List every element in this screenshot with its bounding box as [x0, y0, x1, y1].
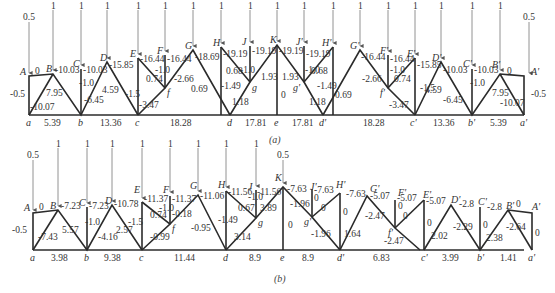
svg-text:-0.95: -0.95 [191, 223, 211, 233]
svg-text:f: f [167, 87, 171, 98]
svg-text:-0.18: -0.18 [172, 209, 192, 219]
caption-b: (b) [274, 273, 286, 285]
svg-text:1: 1 [275, 1, 280, 11]
svg-text:1.93: 1.93 [261, 72, 278, 82]
svg-text:-5.07: -5.07 [426, 196, 446, 206]
svg-text:-10.03: -10.03 [474, 65, 499, 75]
svg-text:G': G' [350, 40, 360, 51]
svg-text:K: K [269, 34, 278, 45]
svg-text:0.68: 0.68 [311, 66, 328, 76]
svg-text:0: 0 [343, 207, 348, 217]
svg-text:1: 1 [136, 1, 141, 11]
svg-text:-15.85: -15.85 [109, 60, 134, 70]
svg-text:-10.07: -10.07 [500, 98, 525, 108]
svg-text:-0.5: -0.5 [531, 89, 546, 99]
svg-text:1: 1 [219, 1, 224, 11]
svg-text:-10.07: -10.07 [30, 102, 55, 112]
svg-text:H: H [217, 179, 226, 190]
svg-text:0: 0 [427, 218, 432, 228]
svg-text:-2.8: -2.8 [487, 202, 502, 212]
svg-text:1: 1 [51, 1, 56, 11]
svg-text:K: K [274, 172, 283, 183]
svg-text:0.68: 0.68 [226, 66, 243, 76]
svg-text:1.41: 1.41 [500, 253, 517, 263]
svg-text:1: 1 [163, 1, 168, 11]
svg-text:g: g [252, 82, 257, 93]
svg-text:2.57: 2.57 [116, 225, 133, 235]
svg-text:-7.43: -7.43 [38, 232, 58, 242]
svg-text:3.99: 3.99 [442, 253, 459, 263]
svg-text:-7.23: -7.23 [89, 201, 109, 211]
svg-text:g': g' [293, 82, 301, 93]
svg-text:0.5: 0.5 [277, 150, 289, 160]
svg-text:0.5: 0.5 [23, 12, 35, 22]
svg-text:b: b [84, 252, 89, 263]
svg-text:A': A' [530, 66, 540, 77]
svg-text:-15.85: -15.85 [417, 60, 442, 70]
svg-text:5.39: 5.39 [490, 118, 507, 128]
svg-text:-1.49: -1.49 [218, 215, 238, 225]
svg-text:0.69: 0.69 [191, 84, 208, 94]
svg-text:0.5: 0.5 [523, 12, 535, 22]
svg-text:d: d [223, 252, 229, 263]
svg-text:-7.23: -7.23 [61, 201, 81, 211]
svg-text:a: a [30, 252, 35, 263]
svg-text:8.9: 8.9 [249, 253, 261, 263]
svg-text:-1.0: -1.0 [85, 217, 100, 227]
svg-text:a: a [26, 117, 31, 128]
svg-text:-1.0: -1.0 [79, 78, 94, 88]
svg-text:1: 1 [498, 1, 503, 11]
svg-text:0.69: 0.69 [335, 90, 352, 100]
svg-text:D: D [99, 52, 108, 63]
svg-text:B: B [46, 63, 52, 74]
load-arrows-a [29, 10, 529, 73]
svg-text:-10.03: -10.03 [55, 65, 80, 75]
svg-text:-1.0: -1.0 [248, 192, 263, 202]
svg-text:H': H' [321, 37, 332, 48]
svg-text:-6.45: -6.45 [84, 95, 104, 105]
svg-text:d': d' [319, 117, 327, 128]
svg-text:1: 1 [140, 139, 145, 149]
svg-text:b': b' [468, 117, 476, 128]
svg-text:1: 1 [85, 139, 90, 149]
svg-text:13.36: 13.36 [433, 118, 455, 128]
svg-text:7.95: 7.95 [492, 88, 509, 98]
svg-text:-2.47: -2.47 [365, 211, 385, 221]
svg-text:18.28: 18.28 [170, 118, 192, 128]
svg-text:d': d' [337, 252, 345, 263]
svg-text:-0.5: -0.5 [12, 225, 27, 235]
svg-text:0: 0 [281, 90, 286, 100]
svg-text:c': c' [410, 117, 417, 128]
svg-text:B: B [50, 200, 56, 211]
svg-text:-5.07: -5.07 [370, 191, 390, 201]
svg-text:11.44: 11.44 [174, 253, 195, 263]
svg-text:1: 1 [110, 139, 115, 149]
svg-text:-1.5: -1.5 [125, 89, 140, 99]
svg-text:1: 1 [105, 1, 110, 11]
svg-text:e: e [274, 117, 279, 128]
svg-text:-16.44: -16.44 [361, 52, 386, 62]
svg-text:-3.47: -3.47 [389, 100, 409, 110]
svg-text:-11.06: -11.06 [200, 191, 224, 201]
svg-text:3.98: 3.98 [51, 253, 68, 263]
svg-text:A: A [19, 66, 27, 77]
svg-text:1.18: 1.18 [309, 97, 326, 107]
svg-text:-19.19: -19.19 [223, 49, 248, 59]
svg-text:3.14: 3.14 [234, 232, 251, 242]
svg-text:-10.03: -10.03 [83, 65, 108, 75]
svg-text:1: 1 [413, 1, 418, 11]
svg-text:1: 1 [302, 1, 307, 11]
svg-text:-2.64: -2.64 [506, 222, 526, 232]
svg-text:b: b [78, 117, 83, 128]
svg-text:13.36: 13.36 [100, 118, 122, 128]
svg-text:g': g' [304, 216, 312, 227]
svg-text:18.28: 18.28 [363, 118, 385, 128]
svg-text:-10.78: -10.78 [114, 199, 139, 209]
svg-text:E: E [129, 48, 136, 59]
svg-text:0: 0 [321, 203, 326, 213]
svg-text:17.81: 17.81 [245, 118, 267, 128]
svg-text:a': a' [520, 117, 528, 128]
svg-text:2.02: 2.02 [431, 231, 448, 241]
svg-text:-1.49: -1.49 [221, 81, 241, 91]
svg-text:c: c [135, 117, 140, 128]
